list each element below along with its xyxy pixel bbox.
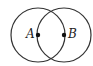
label-a: A [26, 28, 35, 40]
point-a [36, 33, 40, 37]
two-circles-diagram [0, 0, 93, 66]
point-b [62, 33, 66, 37]
label-b: B [68, 28, 77, 40]
